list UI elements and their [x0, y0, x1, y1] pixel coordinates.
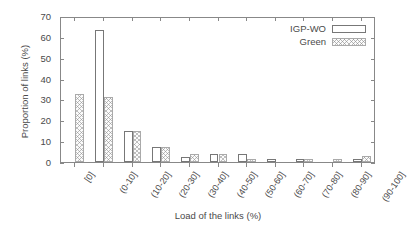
bar-green [133, 131, 142, 162]
x-axis-label: Load of the links (%) [60, 210, 376, 221]
bar-igp-wo [353, 159, 362, 162]
x-tick-mark [218, 163, 219, 167]
y-tick-mark-right [371, 121, 375, 122]
x-tick-mark [361, 163, 362, 167]
bar-green [75, 94, 84, 162]
y-axis-label: Proportion of links (%) [19, 12, 30, 172]
y-tick-mark [60, 121, 64, 122]
x-tick-label: [0] [83, 170, 97, 184]
y-tick-mark [60, 163, 64, 164]
x-tick-mark-top [160, 17, 161, 21]
x-tick-label: (50-60] [263, 170, 287, 199]
bar-green [219, 154, 228, 162]
x-tick-label: (40-50] [234, 170, 258, 199]
bar-igp-wo [181, 157, 190, 162]
legend-label-igp-wo: IGP-WO [290, 23, 326, 34]
y-tick-label: 20 [40, 115, 51, 126]
x-tick-mark-top [132, 17, 133, 21]
y-tick-mark-right [371, 80, 375, 81]
legend-swatch-igp-wo [332, 25, 366, 33]
y-tick-mark [60, 38, 64, 39]
y-tick-label: 0 [46, 157, 51, 168]
y-tick-mark [60, 100, 64, 101]
bar-green [247, 159, 256, 162]
bar-igp-wo [238, 154, 247, 162]
y-tick-mark [60, 59, 64, 60]
y-tick-label: 30 [40, 94, 51, 105]
bar-igp-wo [95, 30, 104, 162]
x-tick-mark [132, 163, 133, 167]
y-tick-mark [60, 17, 64, 18]
y-tick-mark-right [371, 100, 375, 101]
y-tick-mark-right [371, 17, 375, 18]
x-tick-label: (10-20] [148, 170, 172, 199]
bar-green [333, 159, 342, 162]
y-tick-mark [60, 142, 64, 143]
x-tick-mark [246, 163, 247, 167]
y-tick-label: 10 [40, 136, 51, 147]
x-tick-mark [189, 163, 190, 167]
chart-legend: IGP-WO Green [290, 22, 366, 48]
legend-entry-green: Green [290, 35, 366, 48]
x-tick-mark-top [332, 17, 333, 21]
x-tick-mark [332, 163, 333, 167]
x-tick-mark-top [218, 17, 219, 21]
x-tick-mark-top [103, 17, 104, 21]
x-tick-label: (70-80] [320, 170, 344, 199]
bar-igp-wo [210, 154, 219, 162]
x-tick-mark [74, 163, 75, 167]
bar-green [161, 147, 170, 162]
bar-igp-wo [124, 131, 133, 162]
x-tick-label: (90-100] [379, 170, 406, 203]
x-tick-mark-top [303, 17, 304, 21]
y-tick-label: 60 [40, 32, 51, 43]
x-tick-label: (60-70] [291, 170, 315, 199]
bar-igp-wo [152, 147, 161, 162]
plot-area: IGP-WO Green [60, 17, 375, 163]
bar-green [304, 159, 313, 162]
y-tick-mark [60, 80, 64, 81]
x-tick-mark [160, 163, 161, 167]
bar-green [362, 156, 371, 162]
y-tick-label: 40 [40, 74, 51, 85]
x-tick-mark-top [246, 17, 247, 21]
y-tick-label: 50 [40, 53, 51, 64]
legend-swatch-green [332, 38, 366, 46]
x-tick-mark-top [74, 17, 75, 21]
y-tick-mark-right [371, 142, 375, 143]
bar-igp-wo [267, 159, 276, 162]
bar-igp-wo [296, 159, 305, 162]
x-tick-label: (80-90] [349, 170, 373, 199]
x-tick-mark-top [275, 17, 276, 21]
bar-green [190, 154, 199, 162]
y-tick-mark-right [371, 163, 375, 164]
x-tick-mark [275, 163, 276, 167]
bar-green [104, 97, 113, 162]
legend-entry-igp-wo: IGP-WO [290, 22, 366, 35]
legend-label-green: Green [300, 36, 326, 47]
y-tick-mark-right [371, 38, 375, 39]
x-tick-label: (20-30] [177, 170, 201, 199]
x-tick-label: (0-10] [117, 170, 138, 195]
y-tick-label: 70 [40, 11, 51, 22]
x-tick-mark-top [361, 17, 362, 21]
x-tick-label: (30-40] [205, 170, 229, 199]
x-tick-mark [303, 163, 304, 167]
x-tick-mark [103, 163, 104, 167]
x-tick-mark-top [189, 17, 190, 21]
y-tick-mark-right [371, 59, 375, 60]
